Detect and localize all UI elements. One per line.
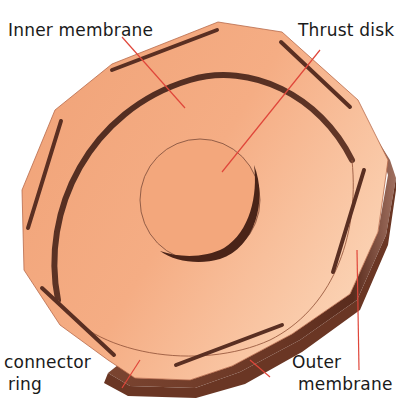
label-connector-ring-line1: connector [4, 352, 91, 372]
label-outer-membrane-line1: Outer [292, 352, 341, 372]
label-thrust-disk: Thrust disk [298, 20, 394, 40]
label-connector-ring-line2: ring [8, 374, 42, 394]
label-inner-membrane: Inner membrane [8, 20, 153, 40]
membrane-diagram [0, 0, 416, 407]
label-outer-membrane-line2: membrane [298, 374, 393, 394]
